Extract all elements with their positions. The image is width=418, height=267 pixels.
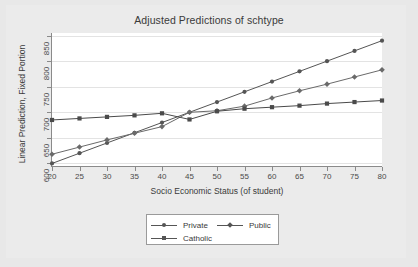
- legend-marker-public: [227, 222, 233, 228]
- data-point-marker: [352, 74, 358, 80]
- data-point-marker: [160, 111, 164, 115]
- data-point-marker: [49, 151, 55, 157]
- data-point-marker: [380, 39, 384, 43]
- legend-label-catholic[interactable]: Catholic: [183, 234, 212, 243]
- data-point-marker: [270, 79, 274, 83]
- figure-background: Adjusted Predictions of schtype Linear P…: [0, 0, 418, 267]
- data-point-marker: [187, 117, 191, 121]
- data-point-marker: [215, 109, 219, 113]
- data-point-marker: [380, 98, 384, 102]
- legend-label-private[interactable]: Private: [183, 221, 208, 230]
- data-point-marker: [132, 113, 136, 117]
- data-point-marker: [215, 100, 219, 104]
- series-private: [50, 39, 384, 166]
- data-point-marker: [242, 90, 246, 94]
- data-point-marker: [187, 109, 193, 115]
- data-point-marker: [105, 115, 109, 119]
- data-point-marker: [297, 69, 301, 73]
- data-point-marker: [324, 81, 330, 87]
- data-point-marker: [242, 107, 246, 111]
- data-point-marker: [132, 130, 138, 136]
- data-point-marker: [159, 124, 165, 130]
- data-point-marker: [50, 118, 54, 122]
- data-point-marker: [77, 116, 81, 120]
- data-point-marker: [379, 67, 385, 73]
- data-point-marker: [269, 95, 275, 101]
- data-point-marker: [325, 59, 329, 63]
- chart-legend: PrivatePublicCatholic: [146, 214, 279, 245]
- legend-label-public[interactable]: Public: [249, 221, 271, 230]
- data-point-marker: [352, 49, 356, 53]
- legend-marker-private: [162, 223, 166, 227]
- data-point-marker: [325, 101, 329, 105]
- data-point-marker: [77, 151, 81, 155]
- data-point-marker: [352, 100, 356, 104]
- data-point-marker: [297, 88, 303, 94]
- data-point-marker: [297, 104, 301, 108]
- data-point-marker: [50, 161, 54, 165]
- data-point-marker: [270, 105, 274, 109]
- data-point-marker: [77, 144, 83, 150]
- legend-marker-catholic: [162, 236, 166, 240]
